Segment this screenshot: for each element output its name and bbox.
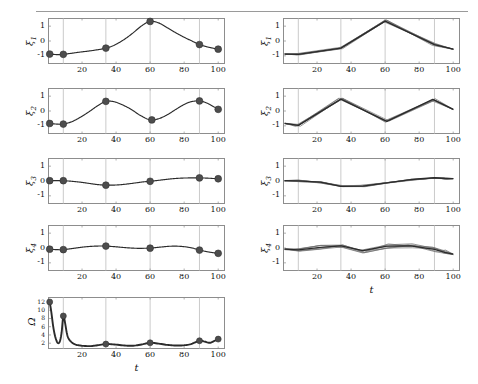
plot-panel-xi4-right: 10-120406080100ξ4t <box>0 0 478 384</box>
x-axis-label-xi4-right: t <box>357 284 387 295</box>
y-axis-label-xi4-right: ξ4 <box>259 228 273 268</box>
figure-canvas: 10-120406080100ξ110-120406080100ξ210-120… <box>0 0 478 384</box>
x-tick-label: 60 <box>373 273 397 281</box>
x-tick-label: 20 <box>305 273 329 281</box>
x-tick-label: 80 <box>407 273 431 281</box>
x-tick-label: 100 <box>441 273 465 281</box>
plot-svg-xi4-right <box>0 0 478 384</box>
x-tick-label: 40 <box>339 273 363 281</box>
